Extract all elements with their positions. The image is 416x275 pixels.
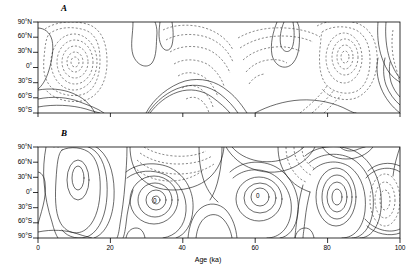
contour-plot-svg [0, 0, 416, 275]
panel-a-group [33, 21, 400, 117]
panel-b-group [33, 142, 400, 243]
panel-a-contours [38, 21, 400, 113]
figure-container: A B 90°N 60°N 30°N 0° 30°S 60°S 90°S 90°… [0, 0, 416, 275]
panel-b-frame [38, 147, 400, 238]
panel-b-contours [38, 142, 400, 238]
